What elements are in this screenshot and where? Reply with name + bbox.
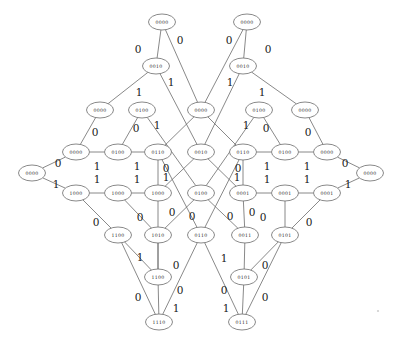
- edge-label: 0: [173, 259, 180, 271]
- graph-node[interactable]: 0100: [188, 185, 215, 201]
- node-label: 0000: [69, 150, 82, 155]
- graph-node[interactable]: 0001: [230, 185, 257, 201]
- graph-edge: [244, 243, 245, 269]
- graph-node[interactable]: 0110: [145, 144, 172, 160]
- graph-node[interactable]: 0011: [232, 227, 259, 243]
- node-label: 1100: [151, 275, 164, 280]
- node-label: 1000: [151, 191, 164, 196]
- graph-node[interactable]: 0000: [292, 102, 319, 118]
- edge-label: 0: [260, 211, 267, 223]
- edge-label: 0: [135, 43, 142, 55]
- graph-node[interactable]: 0000: [19, 165, 46, 181]
- graph-node[interactable]: 0101: [231, 269, 258, 285]
- graph-node[interactable]: 0010: [188, 144, 215, 160]
- graph-node[interactable]: 0100: [129, 102, 156, 118]
- edge-label: 0: [262, 291, 269, 303]
- edge-label: 1: [345, 178, 352, 190]
- edge-label: 1: [173, 302, 180, 314]
- graph-node[interactable]: 0110: [188, 227, 215, 243]
- graph-node[interactable]: 0000: [234, 14, 261, 30]
- edge-label: 0: [263, 122, 270, 134]
- node-label: 0100: [278, 150, 291, 155]
- node-label: 0010: [194, 150, 207, 155]
- edge-labels-layer: 0000111100110001100110111111110000000010…: [53, 34, 352, 314]
- graph-node[interactable]: 0000: [149, 14, 176, 30]
- graph-node[interactable]: 1110: [146, 314, 173, 330]
- graph-node[interactable]: 0001: [272, 185, 299, 201]
- graph-edge: [208, 117, 236, 145]
- node-label: 0001: [320, 191, 333, 196]
- graph-node[interactable]: 1100: [105, 227, 132, 243]
- edge-label: 1: [304, 160, 311, 172]
- edge-label: 1: [137, 251, 144, 263]
- edge-label: 1: [168, 76, 175, 88]
- edge-label: 0: [221, 284, 228, 296]
- edge-label: 1: [259, 86, 266, 98]
- node-label: 1010: [151, 233, 164, 238]
- node-label: 0101: [237, 275, 250, 280]
- node-label: 0000: [93, 108, 106, 113]
- edge-label: 0: [305, 126, 312, 138]
- graph-node[interactable]: 0000: [188, 102, 215, 118]
- node-label: 1000: [111, 191, 124, 196]
- node-label: 0111: [235, 320, 248, 325]
- graph-node[interactable]: 0110: [230, 144, 257, 160]
- edge-label: 0: [133, 122, 140, 134]
- graph-edge: [244, 30, 247, 58]
- graph-node[interactable]: 1100: [145, 269, 172, 285]
- node-label: 0000: [25, 171, 38, 176]
- edge-label: 0: [177, 284, 184, 296]
- node-label: 0110: [194, 233, 207, 238]
- graph-node[interactable]: 0000: [314, 144, 341, 160]
- graph-node[interactable]: 0010: [143, 58, 170, 74]
- node-label: 0010: [149, 64, 162, 69]
- edge-label: 0: [265, 43, 272, 55]
- graph-node[interactable]: 0010: [230, 58, 257, 74]
- node-label: 0000: [363, 171, 376, 176]
- node-label: 0110: [151, 150, 164, 155]
- graph-edge: [158, 285, 159, 314]
- trellis-lattice-diagram: 0000111100110001100110111111110000000010…: [0, 0, 400, 348]
- edge-label: 1: [227, 76, 234, 88]
- graph-node[interactable]: 0101: [272, 227, 299, 243]
- graph-node[interactable]: 0000: [63, 144, 90, 160]
- graph-node[interactable]: 0100: [105, 144, 132, 160]
- edge-label: 1: [154, 119, 161, 131]
- node-label: 0000: [320, 150, 333, 155]
- edges-layer: [43, 30, 360, 315]
- graph-node[interactable]: 0000: [87, 102, 114, 118]
- node-label: 0100: [135, 108, 148, 113]
- edge-label: 1: [134, 160, 141, 172]
- graph-node[interactable]: 0111: [229, 314, 256, 330]
- node-label: 0010: [236, 64, 249, 69]
- edge-label: 0: [137, 211, 144, 223]
- edge-label: 1: [221, 252, 228, 264]
- node-label: 0011: [238, 233, 251, 238]
- edge-label: 0: [227, 210, 234, 222]
- edge-label: 0: [342, 157, 349, 169]
- graph-node[interactable]: 0000: [357, 165, 384, 181]
- graph-node[interactable]: 1010: [145, 227, 172, 243]
- edge-label: 0: [226, 34, 233, 46]
- graph-node[interactable]: 1000: [105, 185, 132, 201]
- edge-label: 1: [134, 173, 141, 185]
- edge-label: 1: [163, 171, 170, 183]
- edge-label: 0: [169, 206, 176, 218]
- edge-label: 1: [243, 119, 250, 131]
- graph-node[interactable]: 0100: [246, 102, 273, 118]
- node-label: 0001: [278, 191, 291, 196]
- graph-node[interactable]: 0001: [314, 185, 341, 201]
- edge-label: 1: [94, 173, 101, 185]
- node-label: 0000: [194, 108, 207, 113]
- edge-label: 0: [249, 206, 256, 218]
- graph-node[interactable]: 1000: [145, 185, 172, 201]
- node-label: 0101: [278, 233, 291, 238]
- corner-speck: [377, 310, 379, 312]
- graph-edge: [208, 200, 238, 228]
- graph-node[interactable]: 0100: [272, 144, 299, 160]
- edge-label: 0: [189, 210, 196, 222]
- edge-label: 1: [136, 86, 143, 98]
- node-label: 0110: [236, 150, 249, 155]
- graph-node[interactable]: 1000: [63, 185, 90, 201]
- edge-label: 1: [264, 160, 271, 172]
